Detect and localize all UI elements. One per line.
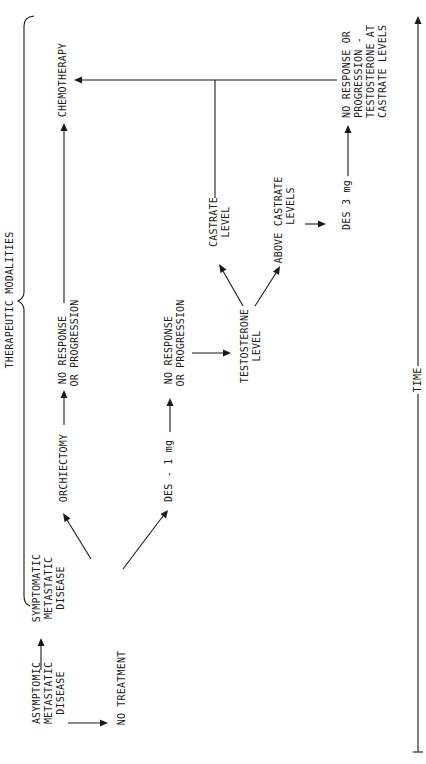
arrowhead-icon <box>74 77 82 84</box>
svg-text:OR PROGRESSION: OR PROGRESSION <box>175 299 186 386</box>
arrowhead-icon <box>219 264 227 273</box>
arrowhead-icon <box>318 221 326 228</box>
svg-text:LEVELS: LEVELS <box>285 187 296 224</box>
arrowhead-icon <box>345 125 352 133</box>
svg-text:LEVEL: LEVEL <box>220 206 231 237</box>
svg-text:NO RESPONSE: NO RESPONSE <box>163 316 174 384</box>
svg-text:DISEASE: DISEASE <box>55 566 66 610</box>
arrowhead-icon <box>223 350 231 357</box>
edge-symptomatic-orchiectomy <box>67 520 91 559</box>
edge-testosterone-above-castrate <box>255 273 276 306</box>
svg-text:ABOVE CASTRATE: ABOVE CASTRATE <box>273 176 284 263</box>
svg-text:ASYMPTOMIC: ASYMPTOMIC <box>31 662 42 724</box>
time-axis-arrowhead-icon <box>415 16 422 24</box>
arrowhead-icon <box>61 390 68 398</box>
svg-text:CASTRATE: CASTRATE <box>208 197 219 247</box>
arrowhead-icon <box>273 266 280 275</box>
node-asymptomatic: ASYMPTOMIC METASTATIC DISEASE <box>31 662 66 724</box>
svg-text:LEVEL: LEVEL <box>251 330 262 361</box>
arrowhead-icon <box>38 638 45 646</box>
therapeutic-modalities-label: THERAPEUTIC MODALITIES <box>4 232 15 369</box>
arrowhead-icon <box>167 398 174 406</box>
edge-symptomatic-des1 <box>123 516 163 569</box>
svg-text:NO RESPONSE OR: NO RESPONSE OR <box>341 30 352 118</box>
node-castrate: CASTRATE LEVEL <box>208 197 231 247</box>
therapeutic-modalities-brace <box>18 16 34 606</box>
arrowhead-icon <box>100 720 108 727</box>
svg-text:DISEASE: DISEASE <box>55 671 66 715</box>
node-symptomatic: SYMPTOMATIC METASTATIC DISEASE <box>31 554 66 622</box>
svg-text:NO RESPONSE: NO RESPONSE <box>57 316 68 384</box>
svg-text:METASTATIC: METASTATIC <box>43 557 54 619</box>
node-des3: DES 3 mg <box>341 180 352 230</box>
treatment-flow-diagram: THERAPEUTIC MODALITIES ASYMPTOMIC METAST… <box>0 0 426 764</box>
time-axis-label: TIME <box>412 368 423 393</box>
node-des3-no-response: NO RESPONSE OR PROGRESSION - TESTOSTERON… <box>341 25 388 118</box>
edge-testosterone-castrate <box>223 271 243 306</box>
node-no-treatment: NO TREATMENT <box>116 651 127 726</box>
node-orch-no-response: NO RESPONSE OR PROGRESSION <box>57 299 80 386</box>
svg-text:TESTOSTERONE: TESTOSTERONE <box>239 309 250 384</box>
svg-text:OR PROGRESSION: OR PROGRESSION <box>69 299 80 386</box>
node-chemotherapy: CHEMOTHERAPY <box>57 43 68 118</box>
node-orchiectomy: ORCHIECTOMY <box>58 434 69 502</box>
node-des1: DES - 1 mg <box>163 440 174 502</box>
arrowhead-icon <box>63 513 71 522</box>
svg-text:SYMPTOMATIC: SYMPTOMATIC <box>31 554 42 622</box>
svg-text:METASTATIC: METASTATIC <box>43 662 54 724</box>
node-above-castrate: ABOVE CASTRATE LEVELS <box>273 176 296 263</box>
svg-text:CASTRATE LEVELS: CASTRATE LEVELS <box>377 25 388 118</box>
svg-text:TESTOSTERONE AT: TESTOSTERONE AT <box>365 25 376 118</box>
node-testosterone: TESTOSTERONE LEVEL <box>239 309 262 384</box>
svg-text:PROGRESSION -: PROGRESSION - <box>353 37 364 118</box>
node-des1-no-response: NO RESPONSE OR PROGRESSION <box>163 299 186 386</box>
arrowhead-icon <box>61 123 68 131</box>
